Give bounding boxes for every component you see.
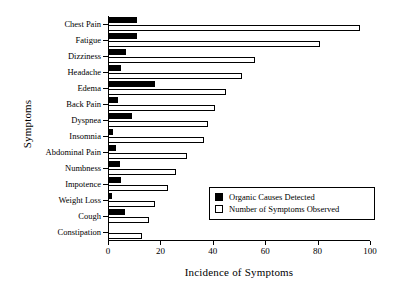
bar-organic-causes [108, 49, 126, 55]
x-axis-tick-label: 0 [93, 246, 123, 256]
x-axis-title: Incidence of Symptoms [108, 266, 370, 278]
y-axis-category-label: Impotence [65, 180, 101, 189]
bar-symptoms-observed [108, 137, 204, 143]
bar-symptoms-observed [108, 217, 149, 223]
bar-organic-causes [108, 97, 118, 103]
y-axis-category-label: Dyspnea [71, 116, 101, 125]
bar-chart-figure: Symptoms Chest PainFatigueDizzinessHeada… [0, 0, 403, 306]
y-axis-category-label: Insomnia [69, 132, 101, 141]
y-axis-tick [103, 120, 108, 121]
y-axis-category-label: Abdominal Pain [46, 148, 101, 157]
y-axis-tick [103, 216, 108, 217]
bar-symptoms-observed [108, 25, 360, 31]
legend-label-symptoms-observed: Number of Symptoms Observed [229, 204, 339, 214]
legend-swatch-open-square [215, 205, 223, 213]
bar-symptoms-observed [108, 121, 208, 127]
bar-organic-causes [108, 65, 121, 71]
bar-symptoms-observed [108, 41, 320, 47]
x-axis-tick [213, 241, 214, 245]
bar-organic-causes [108, 177, 121, 183]
y-axis-tick [103, 136, 108, 137]
legend-swatch-filled-square [215, 193, 223, 201]
bar-symptoms-observed [108, 169, 176, 175]
y-axis-tick [103, 56, 108, 57]
y-axis-tick [103, 200, 108, 201]
x-axis-tick [318, 241, 319, 245]
y-axis-tick [103, 72, 108, 73]
y-axis-category-label: Chest Pain [64, 20, 101, 29]
y-axis-tick [103, 104, 108, 105]
bar-symptoms-observed [108, 73, 242, 79]
bar-organic-causes [108, 17, 137, 23]
y-axis-tick [103, 88, 108, 89]
y-axis-category-label: Numbness [65, 164, 101, 173]
bar-symptoms-observed [108, 57, 255, 63]
legend-label-organic-causes: Organic Causes Detected [229, 192, 315, 202]
y-axis-tick [103, 24, 108, 25]
y-axis-tick [103, 152, 108, 153]
legend-item-organic-causes: Organic Causes Detected [215, 191, 369, 203]
y-axis-category-label: Dizziness [68, 52, 101, 61]
bar-organic-causes [108, 193, 112, 199]
x-axis-tick-label: 40 [198, 246, 228, 256]
y-axis-tick [103, 168, 108, 169]
x-axis-tick [265, 241, 266, 245]
bar-organic-causes [108, 81, 155, 87]
y-axis-category-label: Cough [78, 212, 101, 221]
bar-symptoms-observed [108, 233, 142, 239]
y-axis-tick [103, 232, 108, 233]
x-axis-spine [108, 240, 370, 241]
x-axis-tick [108, 241, 109, 245]
chart-legend: Organic Causes Detected Number of Sympto… [209, 187, 375, 220]
x-axis-tick-label: 80 [303, 246, 333, 256]
bar-organic-causes [108, 129, 113, 135]
y-axis-tick [103, 184, 108, 185]
bar-organic-causes [108, 161, 120, 167]
x-axis-tick [370, 241, 371, 245]
x-axis-tick-label: 100 [355, 246, 385, 256]
y-axis-tick-labels: Chest PainFatigueDizzinessHeadacheEdemaB… [0, 16, 101, 240]
bar-symptoms-observed [108, 185, 168, 191]
y-axis-tick [103, 40, 108, 41]
y-axis-category-label: Back Pain [66, 100, 101, 109]
bar-organic-causes [108, 33, 137, 39]
bar-organic-causes [108, 113, 132, 119]
x-axis-tick-label: 20 [145, 246, 175, 256]
bar-symptoms-observed [108, 201, 155, 207]
y-axis-category-label: Fatigue [76, 36, 102, 45]
x-axis-tick [160, 241, 161, 245]
bar-symptoms-observed [108, 153, 187, 159]
bar-symptoms-observed [108, 89, 226, 95]
x-axis-tick-label: 60 [250, 246, 280, 256]
y-axis-category-label: Edema [77, 84, 101, 93]
y-axis-category-label: Constipation [58, 228, 101, 237]
y-axis-category-label: Weight Loss [58, 196, 101, 205]
legend-item-symptoms-observed: Number of Symptoms Observed [215, 203, 369, 215]
bar-organic-causes [108, 209, 125, 215]
y-axis-category-label: Headache [67, 68, 101, 77]
bar-organic-causes [108, 145, 116, 151]
bar-symptoms-observed [108, 105, 215, 111]
